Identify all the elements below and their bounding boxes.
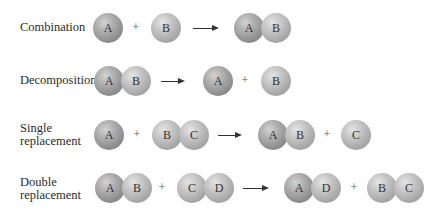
row-label-combination: Combination	[20, 21, 85, 34]
reaction-arrow-icon	[218, 135, 240, 136]
atom-a: A	[93, 13, 123, 43]
atom-symbol: B	[296, 128, 304, 143]
atom-d: D	[311, 173, 341, 203]
atom-b: B	[152, 120, 182, 150]
atom-symbol: A	[295, 181, 304, 196]
atom-symbol: A	[105, 128, 114, 143]
atom-symbol: D	[322, 181, 331, 196]
atom-d: D	[204, 173, 234, 203]
atom-b: B	[261, 66, 291, 96]
atom-a: A	[94, 66, 124, 96]
atom-b: B	[261, 13, 291, 43]
atom-b: B	[367, 173, 397, 203]
atom-symbol: A	[104, 21, 113, 36]
atom-symbol: B	[272, 21, 280, 36]
plus-sign: +	[157, 180, 167, 195]
atom-symbol: C	[190, 128, 198, 143]
row-label-double-replacement: Double replacement	[20, 176, 81, 202]
plus-sign: +	[322, 127, 332, 142]
atom-symbol: B	[132, 74, 140, 89]
row-label-decomposition: Decomposition	[20, 74, 96, 87]
atom-symbol: C	[188, 181, 196, 196]
atom-a: A	[94, 120, 124, 150]
plus-sign: +	[349, 180, 359, 195]
label-line: replacement	[20, 135, 81, 148]
atom-symbol: D	[215, 181, 224, 196]
plus-sign: +	[132, 127, 142, 142]
atom-symbol: A	[106, 181, 115, 196]
atom-b: B	[285, 120, 315, 150]
atom-c: C	[394, 173, 424, 203]
atom-a: A	[284, 173, 314, 203]
atom-c: C	[179, 120, 209, 150]
atom-symbol: A	[269, 128, 278, 143]
atom-symbol: B	[272, 74, 280, 89]
plus-sign: +	[131, 20, 141, 35]
atom-symbol: B	[133, 181, 141, 196]
atom-symbol: C	[352, 128, 360, 143]
atom-symbol: B	[163, 128, 171, 143]
atom-symbol: B	[162, 21, 170, 36]
atom-b: B	[122, 173, 152, 203]
atom-a: A	[203, 66, 233, 96]
atom-symbol: A	[214, 74, 223, 89]
atom-b: B	[151, 13, 181, 43]
atom-a: A	[234, 13, 264, 43]
atom-symbol: C	[405, 181, 413, 196]
reaction-arrow-icon	[243, 188, 267, 189]
atom-b: B	[121, 66, 151, 96]
atom-c: C	[341, 120, 371, 150]
atom-a: A	[258, 120, 288, 150]
atom-symbol: B	[378, 181, 386, 196]
plus-sign: +	[240, 73, 250, 88]
atom-symbol: A	[245, 21, 254, 36]
label-line: replacement	[20, 189, 81, 202]
atom-c: C	[177, 173, 207, 203]
row-label-single-replacement: Single replacement	[20, 122, 81, 148]
atom-a: A	[95, 173, 125, 203]
reaction-arrow-icon	[193, 28, 217, 29]
atom-symbol: A	[105, 74, 114, 89]
reaction-arrow-icon	[161, 81, 183, 82]
